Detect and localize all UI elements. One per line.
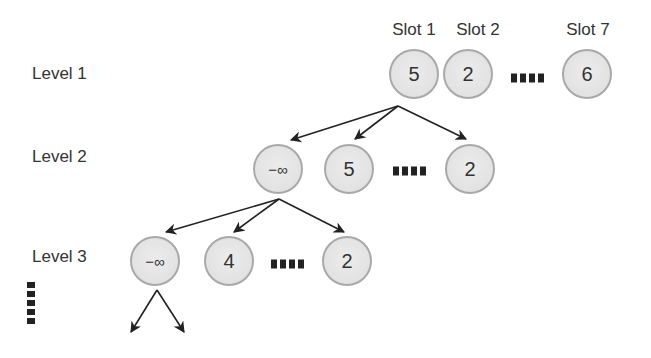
slot-label-1: Slot 1 bbox=[392, 20, 435, 40]
level-1-label: Level 1 bbox=[32, 64, 87, 84]
edge-l3-to-child-right bbox=[157, 290, 184, 332]
slot-label-7: Slot 7 bbox=[566, 20, 609, 40]
level-2-node-3: 2 bbox=[445, 144, 495, 194]
level-1-slot-2-node: 2 bbox=[443, 49, 493, 99]
edge-l2-to-l3-middle bbox=[234, 199, 279, 232]
level-1-slot-7-node: 6 bbox=[562, 49, 612, 99]
level-2-node-1: −∞ bbox=[253, 144, 303, 194]
level-2-ellipsis bbox=[393, 167, 426, 176]
edge-l1-to-l2-right bbox=[398, 106, 466, 139]
level-3-node-3: 2 bbox=[322, 236, 372, 286]
edge-l2-to-l3-left bbox=[166, 199, 279, 232]
level-3-label: Level 3 bbox=[32, 247, 87, 267]
level-2-node-2: 5 bbox=[324, 144, 374, 194]
level-3-node-1: −∞ bbox=[130, 236, 180, 286]
slot-label-2: Slot 2 bbox=[456, 20, 499, 40]
edge-l2-to-l3-right bbox=[279, 199, 344, 232]
edge-l3-to-child-left bbox=[131, 290, 157, 332]
level-3-node-2: 4 bbox=[204, 236, 254, 286]
level-1-slot-1-node: 5 bbox=[389, 49, 439, 99]
level-2-label: Level 2 bbox=[32, 147, 87, 167]
level-3-ellipsis bbox=[271, 260, 304, 269]
edge-l1-to-l2-middle bbox=[355, 106, 398, 139]
edge-l1-to-l2-left bbox=[291, 106, 398, 140]
vertical-ellipsis bbox=[27, 282, 35, 324]
level-1-ellipsis bbox=[511, 74, 544, 83]
